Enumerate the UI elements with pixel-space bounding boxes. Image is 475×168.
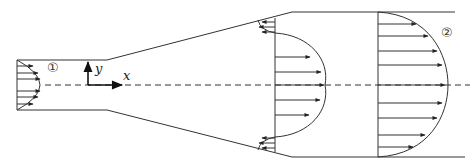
y-axis-label: y bbox=[94, 61, 103, 76]
diagram-canvas: ① y x bbox=[0, 0, 475, 168]
coordinate-axes bbox=[88, 62, 122, 85]
section-2-label: ② bbox=[441, 25, 453, 40]
flow-diagram: ① y x bbox=[0, 0, 475, 168]
x-axis-label: x bbox=[123, 68, 131, 83]
section-1-label: ① bbox=[47, 60, 59, 75]
velocity-profile-section-2 bbox=[378, 12, 448, 157]
velocity-profile-section-1 bbox=[17, 60, 40, 110]
